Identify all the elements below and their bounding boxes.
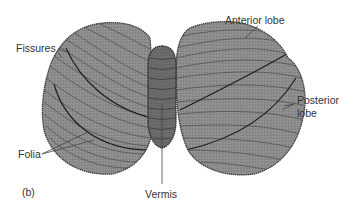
right-hemisphere — [176, 22, 306, 175]
label-folia: Folia — [18, 148, 41, 160]
left-hemisphere — [42, 23, 152, 175]
label-fissures: Fissures — [16, 42, 56, 54]
label-posterior-lobe-line2: lobe — [297, 107, 317, 119]
label-anterior-lobe: Anterior lobe — [225, 14, 285, 26]
label-posterior-lobe-line1: Posterior — [297, 94, 339, 106]
cerebellum-diagram: Anterior lobe Fissures Posterior lobe Fo… — [0, 0, 353, 208]
panel-label: (b) — [22, 186, 35, 198]
label-vermis: Vermis — [145, 188, 177, 200]
